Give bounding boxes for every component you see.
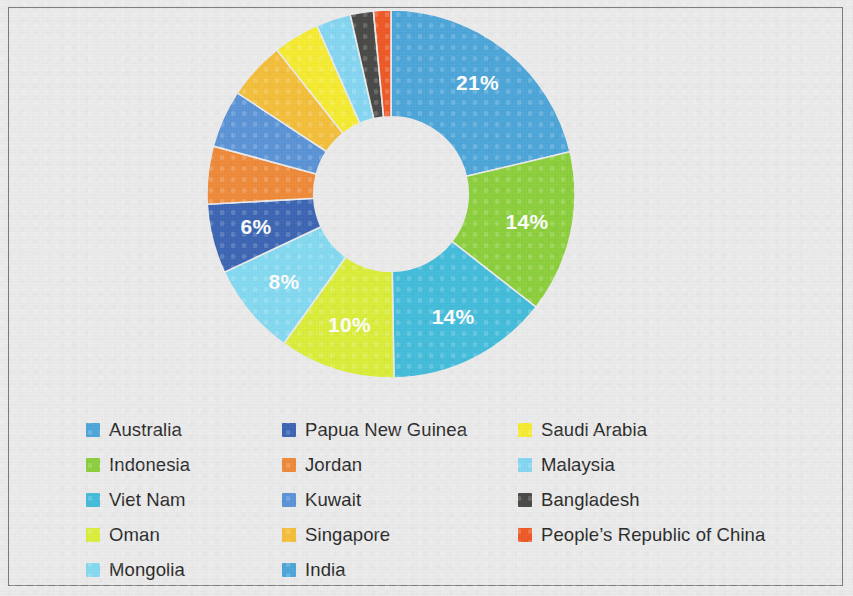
legend-item[interactable]: People’s Republic of China (518, 517, 786, 552)
legend-item-label: India (305, 559, 346, 581)
legend-item[interactable]: Mongolia (86, 552, 282, 587)
legend-item-label: Malaysia (541, 454, 615, 476)
chart-legend: AustraliaPapua New GuineaSaudi ArabiaInd… (86, 412, 786, 587)
legend-color-swatch-icon (518, 458, 532, 472)
donut-slice-percentage-label: 8% (269, 270, 300, 293)
donut-slice-percentage-label: 14% (505, 210, 548, 233)
legend-color-swatch-icon (282, 423, 296, 437)
donut-slice-percentage-label: 10% (328, 313, 371, 336)
legend-item[interactable]: Malaysia (518, 447, 786, 482)
legend-item-label: Indonesia (109, 454, 190, 476)
legend-color-swatch-icon (518, 528, 532, 542)
legend-item-label: Bangladesh (541, 489, 640, 511)
legend-color-swatch-icon (86, 528, 100, 542)
legend-color-swatch-icon (282, 458, 296, 472)
legend-item-label: Papua New Guinea (305, 419, 467, 441)
legend-item-label: Saudi Arabia (541, 419, 647, 441)
legend-color-swatch-icon (282, 528, 296, 542)
legend-color-swatch-icon (86, 458, 100, 472)
legend-item[interactable]: Bangladesh (518, 482, 786, 517)
donut-slice-percentage-label: 6% (241, 215, 272, 238)
legend-item[interactable]: Kuwait (282, 482, 518, 517)
legend-color-swatch-icon (86, 563, 100, 577)
legend-item[interactable]: Jordan (282, 447, 518, 482)
donut-chart-figure: 21%14%14%10%8%6% AustraliaPapua New Guin… (0, 0, 853, 596)
legend-item[interactable]: Indonesia (86, 447, 282, 482)
legend-color-swatch-icon (282, 563, 296, 577)
legend-empty-cell (518, 552, 786, 587)
legend-item[interactable]: Australia (86, 412, 282, 447)
legend-item-label: Oman (109, 524, 160, 546)
legend-item-label: Australia (109, 419, 182, 441)
legend-item-label: People’s Republic of China (541, 524, 765, 546)
donut-slice-group (207, 10, 575, 378)
donut-chart: 21%14%14%10%8%6% (205, 8, 577, 380)
legend-color-swatch-icon (282, 493, 296, 507)
legend-item-label: Singapore (305, 524, 390, 546)
legend-color-swatch-icon (86, 423, 100, 437)
legend-color-swatch-icon (518, 423, 532, 437)
legend-item-label: Jordan (305, 454, 362, 476)
legend-item-label: Mongolia (109, 559, 185, 581)
legend-item[interactable]: India (282, 552, 518, 587)
legend-item[interactable]: Singapore (282, 517, 518, 552)
legend-item-label: Viet Nam (109, 489, 186, 511)
donut-chart-svg: 21%14%14%10%8%6% (205, 8, 577, 380)
legend-color-swatch-icon (518, 493, 532, 507)
legend-item[interactable]: Papua New Guinea (282, 412, 518, 447)
legend-item[interactable]: Oman (86, 517, 282, 552)
legend-item-label: Kuwait (305, 489, 361, 511)
legend-color-swatch-icon (86, 493, 100, 507)
legend-item[interactable]: Saudi Arabia (518, 412, 786, 447)
donut-slice-percentage-label: 14% (432, 305, 475, 328)
legend-item[interactable]: Viet Nam (86, 482, 282, 517)
donut-slice-percentage-label: 21% (456, 71, 499, 94)
